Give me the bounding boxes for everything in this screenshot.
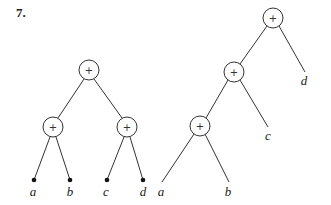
balanced-tree: + + + a b c d — [30, 60, 147, 199]
edge-root-right — [94, 79, 122, 118]
plus-node-root: + — [263, 8, 283, 28]
plus-icon: + — [196, 121, 204, 132]
leaf-label-a: a — [30, 184, 37, 199]
leaf-label-b: b — [225, 184, 232, 199]
plus-node-left: + — [43, 117, 63, 137]
expression-trees-figure: 7. + + + a b c d — [0, 0, 331, 205]
edge-mid-c — [240, 80, 268, 127]
plus-node-right: + — [117, 117, 137, 137]
leaf-label-d: d — [140, 184, 147, 199]
edge-right-d — [130, 137, 143, 180]
leaf-dot-icon — [68, 178, 73, 183]
left-deep-tree: + + + d c a b — [158, 8, 308, 199]
edge-bottom-a — [162, 134, 194, 182]
leaf-label-d: d — [301, 73, 308, 88]
edge-left-b — [56, 137, 70, 180]
plus-node-bottom: + — [190, 116, 210, 136]
figure-number: 7. — [16, 5, 26, 20]
plus-icon: + — [85, 65, 93, 76]
leaf-dot-icon — [32, 178, 37, 183]
plus-node-mid: + — [224, 62, 244, 82]
edge-root-left — [58, 79, 84, 118]
edge-mid-bottom — [206, 80, 228, 118]
leaf-label-a: a — [158, 184, 165, 199]
plus-icon: + — [230, 67, 238, 78]
leaf-label-c: c — [103, 184, 109, 199]
plus-node-root: + — [79, 60, 99, 80]
plus-icon: + — [49, 122, 57, 133]
leaf-dot-icon — [141, 178, 146, 183]
leaf-label-b: b — [67, 184, 74, 199]
plus-icon: + — [269, 13, 277, 24]
edge-right-c — [107, 137, 124, 180]
leaf-dot-icon — [105, 178, 110, 183]
edge-left-a — [34, 137, 50, 180]
leaf-label-c: c — [265, 128, 271, 143]
edge-root-d — [279, 26, 305, 72]
edge-root-mid — [240, 26, 267, 64]
plus-icon: + — [123, 122, 131, 133]
edge-bottom-b — [205, 134, 229, 182]
